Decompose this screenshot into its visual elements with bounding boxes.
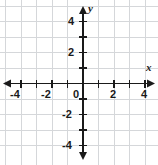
x-axis-label: x — [146, 62, 152, 73]
grid-and-axes-svg — [0, 0, 158, 165]
x-tick-label-4: 4 — [141, 89, 147, 100]
y-axis-label: y — [88, 3, 93, 14]
x-tick-label-neg4: -4 — [10, 89, 20, 100]
y-tick-label-4: 4 — [68, 16, 74, 27]
y-tick-label-2: 2 — [68, 47, 74, 58]
y-tick-label-neg2: -2 — [62, 109, 72, 120]
x-tick-label-2: 2 — [110, 89, 116, 100]
y-tick-label-neg4: -4 — [62, 140, 72, 151]
coordinate-plane-figure: -4 -2 0 2 4 4 2 -2 -4 y x — [0, 0, 158, 165]
plot-background — [0, 0, 158, 165]
x-tick-label-zero: 0 — [73, 89, 79, 100]
x-tick-label-neg2: -2 — [41, 89, 51, 100]
